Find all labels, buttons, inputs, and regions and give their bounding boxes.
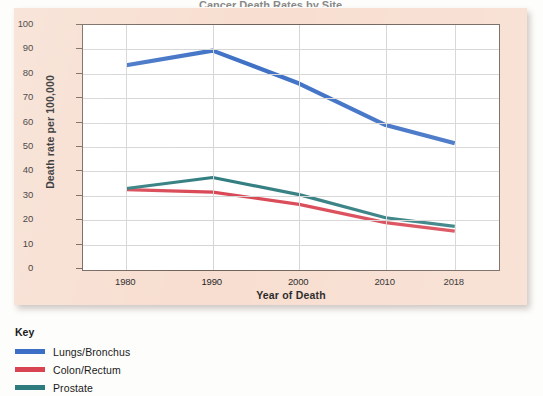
legend-label: Prostate	[53, 382, 93, 394]
legend: Key Lungs/BronchusColon/RectumProstate	[15, 326, 275, 396]
legend-label: Colon/Rectum	[53, 364, 121, 376]
x-tick-label: 2018	[431, 276, 477, 287]
chart-title: Cancer Death Rates by Site	[14, 0, 527, 7]
x-axis-title: Year of Death	[82, 289, 500, 301]
y-tick-label: 100	[0, 18, 33, 29]
y-tick-label: 20	[0, 213, 33, 224]
x-tick-label: 2000	[275, 276, 321, 287]
gridline-vertical	[213, 25, 214, 270]
y-tick-label: 90	[0, 42, 33, 53]
gridline-horizontal	[83, 147, 499, 148]
gridline-horizontal	[83, 123, 499, 124]
gridline-vertical	[299, 25, 300, 270]
gridline-horizontal	[83, 74, 499, 75]
y-axis-title: Death rate per 100,000	[44, 27, 56, 237]
x-tick-label: 1990	[189, 276, 235, 287]
legend-item: Prostate	[15, 381, 275, 394]
legend-title: Key	[15, 326, 275, 338]
legend-item: Colon/Rectum	[15, 363, 275, 376]
y-tick-label: 70	[0, 91, 33, 102]
gridline-horizontal	[83, 245, 499, 246]
x-tick-label: 1980	[102, 276, 148, 287]
gridline-vertical	[386, 25, 387, 270]
x-tick-label: 2010	[362, 276, 408, 287]
legend-color-swatch	[15, 367, 45, 372]
gridline-horizontal	[83, 98, 499, 99]
gridline-vertical	[126, 25, 127, 270]
gridline-horizontal	[83, 220, 499, 221]
y-tick-label: 40	[0, 164, 33, 175]
y-tick-label: 60	[0, 116, 33, 127]
y-tick-label: 0	[0, 262, 33, 273]
y-tick-label: 10	[0, 238, 33, 249]
figure-panel: Cancer Death Rates by Site Death rate pe…	[14, 8, 527, 305]
legend-color-swatch	[15, 385, 45, 390]
series-line	[126, 51, 455, 144]
legend-color-swatch	[15, 349, 45, 354]
y-tick-label: 80	[0, 67, 33, 78]
y-tick-label: 30	[0, 189, 33, 200]
legend-items: Lungs/BronchusColon/RectumProstate	[15, 345, 275, 394]
gridline-horizontal	[83, 171, 499, 172]
y-tick-label: 50	[0, 140, 33, 151]
legend-label: Lungs/Bronchus	[53, 346, 130, 358]
gridline-horizontal	[83, 196, 499, 197]
gridline-vertical	[455, 25, 456, 270]
gridline-horizontal	[83, 49, 499, 50]
plot-area	[82, 24, 500, 271]
legend-item: Lungs/Bronchus	[15, 345, 275, 358]
